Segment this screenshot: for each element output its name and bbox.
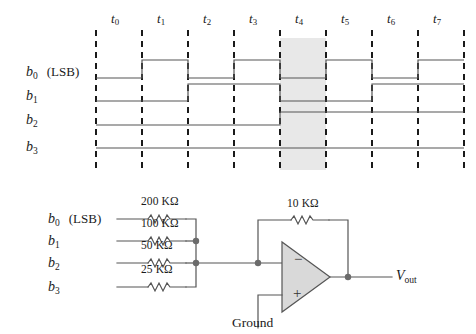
junction-dots (193, 238, 351, 280)
opamp-triangle (282, 242, 330, 312)
time-label-t4: t4 (295, 12, 303, 27)
resistor-label-b1: 100 KΩ (141, 218, 179, 230)
time-label-t3: t3 (249, 12, 257, 27)
circuit-input-label-b0: b0(LSB) (48, 212, 101, 228)
signal-label-b3: b3 (26, 140, 38, 156)
resistor-label-b2: 50 KΩ (141, 240, 173, 252)
circuit-input-label-b1: b1 (48, 234, 60, 250)
signal-label-b0: b0(LSB) (26, 65, 79, 81)
time-label-t1: t1 (157, 12, 165, 27)
signal-label-b2: b2 (26, 113, 38, 129)
waveform-b2 (96, 112, 464, 125)
circuit-diagram: − + (0, 180, 476, 334)
junction-dot-feedback (255, 260, 261, 266)
dac-figure: t0t1t2t3t4t5t6t7 b0(LSB)b1b2b3 (0, 0, 476, 334)
timing-diagram (0, 0, 476, 180)
junction-dot-b1 (193, 238, 199, 244)
ground-label: Ground (232, 316, 273, 330)
circuit-input-label-b2: b2 (48, 256, 60, 272)
signal-label-b1: b1 (26, 89, 38, 105)
t4-highlight-band (280, 38, 326, 170)
resistor-label-b3: 25 KΩ (141, 264, 173, 276)
time-label-t7: t7 (433, 12, 441, 27)
time-label-t6: t6 (387, 12, 395, 27)
feedback-resistor-label: 10 KΩ (287, 198, 319, 210)
time-label-t5: t5 (341, 12, 349, 27)
vout-label: Vout (396, 269, 417, 285)
time-label-t2: t2 (203, 12, 211, 27)
time-label-t0: t0 (111, 12, 119, 27)
circuit-input-label-b3: b3 (48, 280, 60, 296)
waveform-b0 (96, 60, 464, 78)
waveform-b1 (96, 84, 464, 101)
opamp-inverting-sign: − (294, 251, 302, 267)
opamp-noninverting-sign: + (293, 285, 301, 301)
resistor-label-b0: 200 KΩ (141, 196, 179, 208)
junction-dot-output (345, 274, 351, 280)
junction-dot-b2 (193, 260, 199, 266)
